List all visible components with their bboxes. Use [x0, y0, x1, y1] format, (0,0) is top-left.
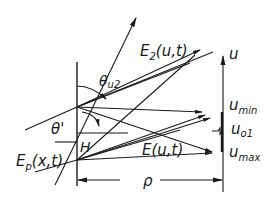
theta-u2-label: θu2	[99, 73, 120, 90]
ray-top-to-umin	[77, 107, 202, 112]
u-axis-label: u	[229, 45, 239, 63]
optics-diagram: E2(u,t) θu2 θ' H Ep(x,t) E(u,t) u umin u…	[0, 0, 280, 202]
u-max-label: umax	[229, 143, 260, 163]
rho-label: ρ	[143, 172, 153, 190]
theta-prime-label: θ'	[51, 120, 64, 138]
u01-tick	[212, 128, 222, 134]
ep-label: Ep(x,t)	[16, 152, 63, 172]
e2-beam	[55, 18, 136, 185]
u-min-label: umin	[229, 96, 257, 116]
ray-bottom-to-umin	[77, 115, 205, 160]
ray-top-extended	[77, 63, 190, 107]
e-label: E(u,t)	[142, 141, 183, 159]
u-01-label: uo1	[231, 120, 253, 139]
h-label: H	[80, 139, 91, 155]
e2-label: E2(u,t)	[140, 42, 188, 62]
